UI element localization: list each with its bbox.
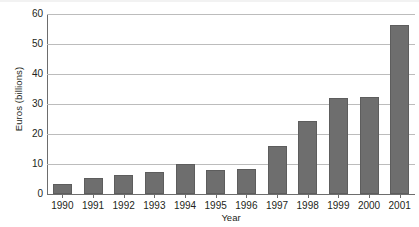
y-axis-tick-label: 20 — [3, 129, 43, 139]
y-axis-tick-label: 0 — [3, 189, 43, 199]
top-edge-artifact — [0, 0, 419, 2]
bar-1991 — [84, 178, 103, 194]
y-axis-tick-label: 30 — [3, 99, 43, 109]
x-axis-tick — [93, 195, 94, 198]
bar-1996 — [237, 169, 256, 195]
x-axis-tick-label: 2001 — [380, 199, 419, 212]
bar-series — [47, 14, 415, 194]
bar-1998 — [298, 121, 317, 194]
x-axis-tick — [277, 195, 278, 198]
x-axis-tick — [400, 195, 401, 198]
y-axis-tick-label: 50 — [3, 39, 43, 49]
y-axis-tick-labels: 0102030405060 — [0, 14, 43, 194]
x-axis-tick — [369, 195, 370, 198]
bar-1990 — [53, 184, 72, 194]
x-axis-tick — [185, 195, 186, 198]
x-axis-tick — [246, 195, 247, 198]
x-axis-tick — [154, 195, 155, 198]
x-axis-tick — [338, 195, 339, 198]
bar-1999 — [329, 98, 348, 194]
bar-1997 — [268, 146, 287, 194]
x-axis-tick — [216, 195, 217, 198]
bar-2000 — [360, 97, 379, 194]
y-axis-tick-label: 60 — [3, 9, 43, 19]
y-axis-tick-label: 40 — [3, 69, 43, 79]
x-axis-tick — [62, 195, 63, 198]
bar-1993 — [145, 172, 164, 194]
y-axis-tick-label: 10 — [3, 159, 43, 169]
bar-1995 — [206, 170, 225, 194]
x-axis-tick — [124, 195, 125, 198]
bar-1994 — [176, 164, 195, 194]
x-axis-tick-labels: 1990199119921993199419951996199719981999… — [47, 199, 415, 213]
bar-2001 — [390, 25, 409, 194]
x-axis-tick — [308, 195, 309, 198]
bar-chart: Euros (billions) 0102030405060 199019911… — [0, 0, 419, 227]
plot-area — [47, 14, 415, 194]
x-axis-title: Year — [47, 212, 415, 224]
bar-1992 — [114, 175, 133, 194]
